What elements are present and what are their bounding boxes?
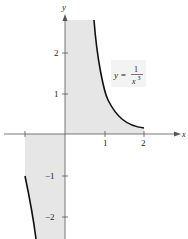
equation-numerator: 1	[134, 65, 138, 74]
tick-label-x-1: 1	[103, 138, 108, 148]
y-axis-arrow-icon	[63, 14, 68, 21]
tick-label-y-neg1: −1	[45, 171, 55, 181]
chart-figure: y x 1 2 2 1 −1 −2 y = 1 x 3	[0, 0, 188, 239]
equation-denominator: x	[131, 77, 136, 86]
tick-label-x-2: 2	[141, 138, 146, 148]
y-axis-label: y	[61, 2, 66, 12]
x-axis-label: x	[181, 130, 186, 139]
equation-exponent: 3	[138, 75, 141, 81]
tick-label-y-1: 1	[54, 89, 59, 99]
equation-lhs: y =	[113, 70, 126, 80]
x-axis-arrow-icon	[174, 132, 181, 137]
shaded-region-left	[25, 134, 65, 239]
chart-svg: y x 1 2 2 1 −1 −2 y = 1 x 3	[0, 0, 188, 239]
tick-label-y-neg2: −2	[45, 212, 55, 222]
tick-label-y-2: 2	[54, 48, 59, 58]
